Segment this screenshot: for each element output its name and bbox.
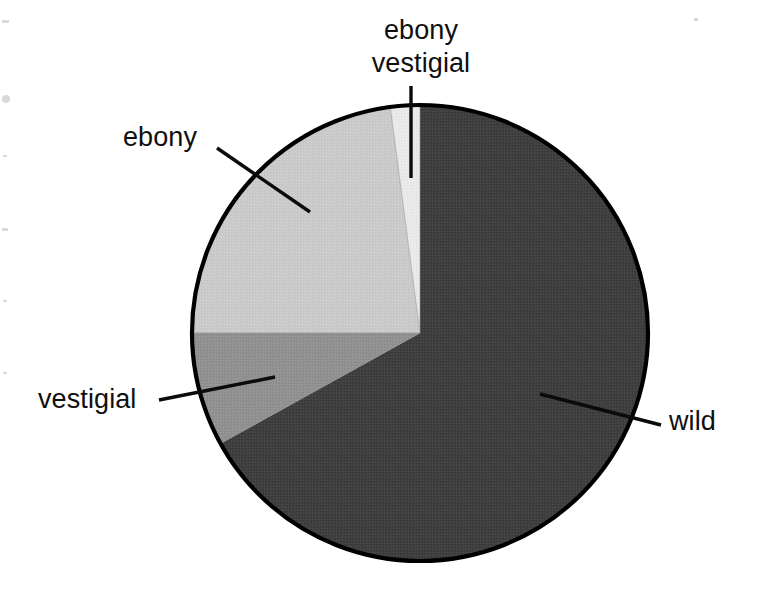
slice-label-ebony: ebony	[123, 121, 197, 154]
pie-chart	[0, 0, 759, 606]
pie-slice-ebony[interactable]	[192, 107, 420, 333]
slice-label-ebony-vestigial-line2: vestigial	[372, 48, 470, 78]
slice-label-vestigial: vestigial	[38, 383, 136, 416]
slice-label-wild: wild	[669, 405, 716, 438]
figure-canvas: ebonyvestigial ebony vestigial wild	[0, 0, 759, 606]
slice-label-ebony-vestigial: ebonyvestigial	[328, 14, 514, 80]
slice-label-ebony-vestigial-line1: ebony	[384, 15, 458, 45]
